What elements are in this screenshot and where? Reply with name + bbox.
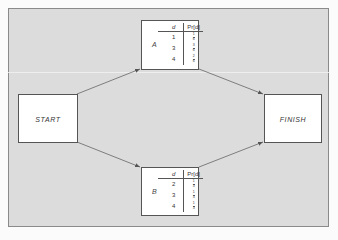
start-label: START <box>19 115 77 122</box>
edge-b-to-finish <box>199 142 263 167</box>
edge-start-to-a <box>77 69 140 94</box>
duration-value: 1 <box>158 32 184 44</box>
activity-a-node: A d Pr[d] 1 16 3 36 4 26 <box>141 20 199 70</box>
activity-b-distribution-table: d Pr[d] 2 13 3 13 4 13 <box>158 170 203 212</box>
table-row: 4 26 <box>158 54 203 65</box>
edge-a-to-finish <box>199 69 263 94</box>
probability-header: Pr[d] <box>184 170 203 179</box>
probability-header: Pr[d] <box>184 23 203 32</box>
duration-value: 4 <box>158 201 184 212</box>
probability-value: 13 <box>184 179 203 191</box>
activity-a-label: A <box>152 41 157 48</box>
table-row: 3 36 <box>158 43 203 54</box>
duration-value: 3 <box>158 43 184 54</box>
probability-value: 16 <box>184 32 203 44</box>
activity-a-distribution-table: d Pr[d] 1 16 3 36 4 26 <box>158 23 203 65</box>
table-row: 2 13 <box>158 179 203 191</box>
table-row: 1 16 <box>158 32 203 44</box>
start-node: START <box>18 94 78 143</box>
duration-header: d <box>158 170 184 179</box>
probability-value: 26 <box>184 54 203 65</box>
probability-value: 13 <box>184 201 203 212</box>
table-row: 3 13 <box>158 190 203 201</box>
duration-value: 4 <box>158 54 184 65</box>
finish-node: FINISH <box>264 94 322 143</box>
duration-value: 3 <box>158 190 184 201</box>
activity-b-node: B d Pr[d] 2 13 3 13 4 13 <box>141 167 199 216</box>
table-row: 4 13 <box>158 201 203 212</box>
probability-value: 13 <box>184 190 203 201</box>
duration-value: 2 <box>158 179 184 191</box>
duration-header: d <box>158 23 184 32</box>
edge-start-to-b <box>77 142 140 167</box>
probability-value: 36 <box>184 43 203 54</box>
activity-b-label: B <box>152 188 157 195</box>
finish-label: FINISH <box>265 115 321 122</box>
